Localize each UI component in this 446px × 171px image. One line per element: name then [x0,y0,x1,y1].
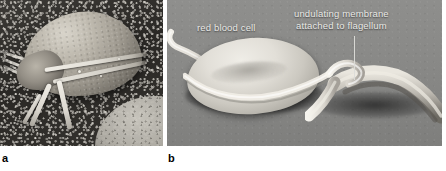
label-undulating-membrane-line1: undulating membrane [294,8,389,20]
label-undulating-membrane: undulating membrane attached to flagellu… [294,8,389,32]
panel-a-image [0,0,163,146]
figure-container: red blood cell undulating membrane attac… [0,0,446,171]
leader-line-undulating-membrane [354,36,355,80]
debris-speck-1 [78,70,81,73]
panel-b-image: red blood cell undulating membrane attac… [167,0,442,146]
label-undulating-membrane-line2: attached to flagellum [294,20,389,32]
label-red-blood-cell: red blood cell [197,22,256,34]
panel-letter-b: b [168,152,175,164]
panel-letter-a: a [2,152,8,164]
debris-speck-3 [118,58,120,60]
trypanosome-body [305,54,442,124]
debris-speck-2 [100,75,102,77]
